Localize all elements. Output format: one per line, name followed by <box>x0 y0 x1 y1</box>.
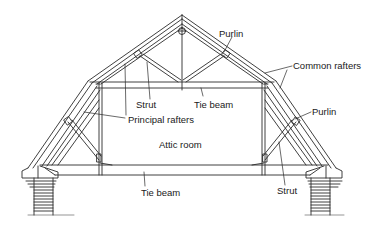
lower-rafters-left <box>28 81 100 168</box>
label-strut-lower: Strut <box>277 186 297 196</box>
lower-tie-beam <box>40 163 328 175</box>
label-tie-beam-upper: Tie beam <box>194 100 233 110</box>
leader-lines <box>84 37 311 186</box>
label-purlin-top: Purlin <box>219 29 243 39</box>
label-strut-upper: Strut <box>136 100 156 110</box>
posts <box>97 83 267 175</box>
eaves-right <box>306 166 342 178</box>
upper-rafters-left <box>88 15 182 84</box>
eaves-left <box>22 166 58 178</box>
label-purlin-right: Purlin <box>312 107 336 117</box>
lower-rafters-right <box>264 81 336 168</box>
label-tie-beam-lower: Tie beam <box>141 188 180 198</box>
label-common-rafters: Common rafters <box>293 61 361 71</box>
label-principal-rafters: Principal rafters <box>128 115 194 125</box>
brick-pier-left <box>26 178 74 215</box>
brick-pier-right <box>305 178 344 215</box>
upper-rafters-right <box>182 15 276 84</box>
label-attic-room: Attic room <box>159 140 202 150</box>
